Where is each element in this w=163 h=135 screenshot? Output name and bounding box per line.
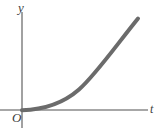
graph-figure: y t O [0,0,163,135]
t-axis-label: t [150,103,153,115]
curve-path [22,19,138,111]
origin-label: O [12,111,21,124]
plot-canvas [0,0,163,135]
y-axis-label: y [18,1,24,14]
